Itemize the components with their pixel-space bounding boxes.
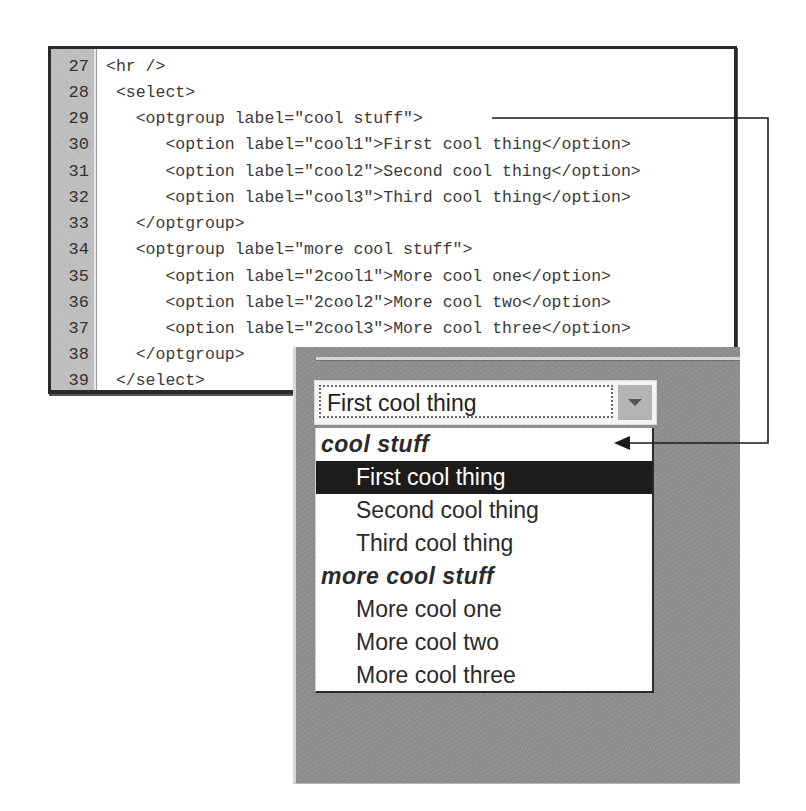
code-line: 35 <option label="2cool1">More cool one<… xyxy=(51,264,734,290)
line-number: 33 xyxy=(51,211,89,237)
select-current-value[interactable]: First cool thing xyxy=(319,385,613,418)
select-dropdown[interactable]: First cool thing xyxy=(314,380,657,425)
code-line: 28 <select> xyxy=(51,80,734,106)
code-line: 31 <option label="cool2">Second cool thi… xyxy=(51,159,734,185)
line-number: 28 xyxy=(51,80,89,106)
code-line: 27<hr /> xyxy=(51,54,734,80)
dropdown-option[interactable]: More cool one xyxy=(316,593,652,626)
code-text: <option label="cool2">Second cool thing<… xyxy=(106,159,641,185)
code-line: 37 <option label="2cool3">More cool thre… xyxy=(51,316,734,342)
dropdown-option[interactable]: Second cool thing xyxy=(316,494,652,527)
dropdown-option[interactable]: More cool three xyxy=(316,659,652,692)
optgroup-label: cool stuff xyxy=(316,428,652,461)
dropdown-option-selected[interactable]: First cool thing xyxy=(316,461,652,494)
code-text: <option label="2cool2">More cool two</op… xyxy=(106,290,611,316)
code-line: 34 <optgroup label="more cool stuff"> xyxy=(51,237,734,263)
code-text: </optgroup> xyxy=(106,342,245,368)
code-line: 36 <option label="2cool2">More cool two<… xyxy=(51,290,734,316)
code-listing: 27<hr /> 28 <select> 29 <optgroup label=… xyxy=(48,46,737,394)
code-text: <hr /> xyxy=(106,54,165,80)
line-number: 36 xyxy=(51,290,89,316)
dropdown-list: cool stuff First cool thing Second cool … xyxy=(315,428,654,693)
code-text: <option label="2cool1">More cool one</op… xyxy=(106,264,611,290)
horizontal-rule xyxy=(316,357,740,361)
chevron-down-icon xyxy=(628,399,642,406)
code-line: 30 <option label="cool1">First cool thin… xyxy=(51,132,734,158)
code-text: </select> xyxy=(106,368,205,394)
code-text: <option label="2cool3">More cool three</… xyxy=(106,316,631,342)
line-number: 39 xyxy=(51,368,89,394)
code-line: 33 </optgroup> xyxy=(51,211,734,237)
code-text: <option label="cool1">First cool thing</… xyxy=(106,132,631,158)
line-number: 32 xyxy=(51,185,89,211)
code-text: <optgroup label="cool stuff"> xyxy=(106,106,423,132)
line-number: 31 xyxy=(51,159,89,185)
line-number: 37 xyxy=(51,316,89,342)
optgroup-label: more cool stuff xyxy=(316,560,652,593)
code-text: <option label="cool3">Third cool thing</… xyxy=(106,185,631,211)
code-text: <optgroup label="more cool stuff"> xyxy=(106,237,472,263)
line-number: 34 xyxy=(51,237,89,263)
line-number: 29 xyxy=(51,106,89,132)
line-number: 35 xyxy=(51,264,89,290)
line-number: 30 xyxy=(51,132,89,158)
code-line: 29 <optgroup label="cool stuff"> xyxy=(51,106,734,132)
code-text: </optgroup> xyxy=(106,211,245,237)
dropdown-toggle-button[interactable] xyxy=(618,385,652,420)
code-line: 32 <option label="cool3">Third cool thin… xyxy=(51,185,734,211)
rendered-output-panel: First cool thing cool stuff First cool t… xyxy=(293,347,740,784)
dropdown-option[interactable]: Third cool thing xyxy=(316,527,652,560)
code-text: <select> xyxy=(106,80,195,106)
line-number: 27 xyxy=(51,54,89,80)
line-number: 38 xyxy=(51,342,89,368)
dropdown-option[interactable]: More cool two xyxy=(316,626,652,659)
